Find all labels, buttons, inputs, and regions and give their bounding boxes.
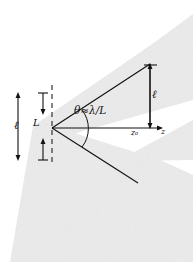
waist-L-label: L bbox=[33, 117, 40, 128]
ell-left-label: ℓ bbox=[14, 119, 19, 132]
beam-shaded-region bbox=[10, 14, 193, 262]
angle-label: θ≈λ/L bbox=[74, 104, 106, 116]
z0-label: z₀ bbox=[131, 128, 138, 137]
z-axis-label: z bbox=[161, 127, 165, 136]
ell-right-label: ℓ bbox=[152, 88, 157, 101]
beam-geometry-figure: θ≈λ/L ℓ L ℓ z₀ z bbox=[0, 0, 193, 262]
